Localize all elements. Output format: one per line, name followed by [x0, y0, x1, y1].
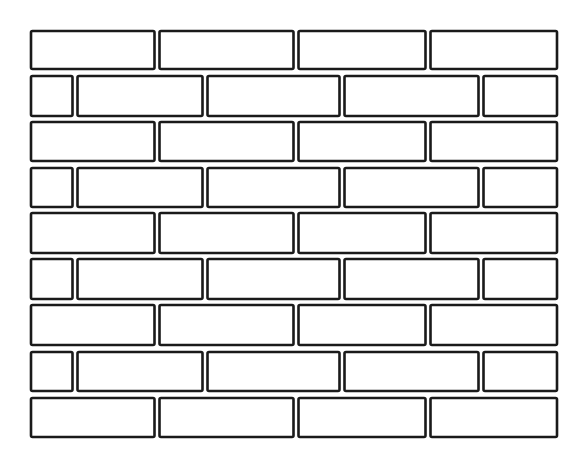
brick [299, 213, 426, 253]
brick [78, 76, 203, 116]
brick-row [31, 168, 557, 207]
brick [345, 352, 479, 391]
brick [31, 31, 155, 69]
half-brick [31, 76, 73, 116]
half-brick [31, 352, 73, 391]
half-brick [484, 259, 558, 299]
brick [160, 398, 294, 437]
brick [431, 305, 558, 345]
brick [208, 352, 340, 391]
brick [31, 213, 155, 253]
brick [345, 259, 479, 299]
brick [160, 305, 294, 345]
brick [78, 259, 203, 299]
brick [160, 31, 294, 69]
brick [78, 168, 203, 207]
brick [31, 122, 155, 161]
brick [208, 168, 340, 207]
brick-row [31, 213, 557, 253]
brick [160, 213, 294, 253]
half-brick [31, 259, 73, 299]
brick [431, 398, 558, 437]
brick [299, 398, 426, 437]
brick [299, 122, 426, 161]
brick [208, 259, 340, 299]
brick [31, 398, 155, 437]
half-brick [484, 76, 558, 116]
brick-row [31, 31, 557, 69]
half-brick [484, 168, 558, 207]
brick [78, 352, 203, 391]
brick-row [31, 122, 557, 161]
brick-row [31, 398, 557, 437]
brick [431, 122, 558, 161]
brick-row [31, 305, 557, 345]
brick [345, 168, 479, 207]
brick [431, 213, 558, 253]
brick-wall [0, 0, 581, 459]
brick-row [31, 259, 557, 299]
brick [31, 305, 155, 345]
brick [160, 122, 294, 161]
half-brick [31, 168, 73, 207]
brick [345, 76, 479, 116]
brick [299, 31, 426, 69]
half-brick [484, 352, 558, 391]
brick [208, 76, 340, 116]
brick-row [31, 352, 557, 391]
brick-row [31, 76, 557, 116]
brick [431, 31, 558, 69]
brick [299, 305, 426, 345]
